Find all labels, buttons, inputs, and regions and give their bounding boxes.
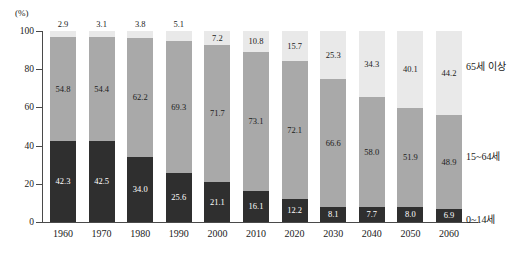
bar-value-label: 2.9 — [58, 19, 69, 29]
bar-segment-old-2030: 25.3 — [320, 31, 346, 79]
bar-value-label: 3.8 — [135, 19, 146, 29]
bar-value-label: 8.0 — [405, 210, 416, 219]
bar-value-label: 48.9 — [442, 158, 457, 167]
bar-segment-old-2060: 44.2 — [436, 31, 462, 115]
bar-segment-young-2040: 7.7 — [359, 207, 385, 222]
bar-segment-young-2000: 21.1 — [204, 182, 230, 222]
y-axis-tick-60: 60 — [4, 102, 34, 112]
y-axis-tick-0: 0 — [4, 217, 34, 227]
bar-segment-young-1990: 25.6 — [166, 173, 192, 222]
bar-value-label: 54.8 — [56, 85, 71, 94]
bar-segment-work-2000: 71.7 — [204, 45, 230, 182]
bar-value-label: 3.1 — [96, 19, 107, 29]
bar-value-label: 62.2 — [133, 93, 148, 102]
bar-segment-old-1990: 5.1 — [166, 31, 192, 41]
bar-1970[interactable]: 3.154.442.5 — [89, 31, 115, 222]
y-axis-tick-labels: 100806040200 — [0, 0, 34, 261]
bar-value-label: 73.1 — [249, 117, 264, 126]
bar-segment-old-1980: 3.8 — [127, 31, 153, 38]
bar-value-label: 66.6 — [326, 139, 341, 148]
legend-label-young: 0~14세 — [466, 211, 495, 226]
bar-value-label: 42.5 — [94, 177, 109, 186]
bar-segment-young-1960: 42.3 — [50, 141, 76, 222]
bar-segment-young-2030: 8.1 — [320, 207, 346, 222]
bar-segment-old-2000: 7.2 — [204, 31, 230, 45]
bar-value-label: 51.9 — [403, 153, 418, 162]
x-axis-label-2060: 2060 — [426, 228, 472, 239]
population-age-structure-chart: (%) 100806040200 2.954.842.33.154.442.53… — [0, 0, 524, 261]
legend-label-work: 15~64세 — [466, 148, 500, 163]
bar-value-label: 5.1 — [173, 19, 184, 29]
bar-segment-old-2050: 40.1 — [397, 31, 423, 108]
y-axis-tick-20: 20 — [4, 179, 34, 189]
bar-value-label: 6.9 — [444, 211, 455, 220]
bar-value-label: 34.0 — [133, 185, 148, 194]
bar-2040[interactable]: 34.358.07.7 — [359, 31, 385, 222]
bar-2050[interactable]: 40.151.98.0 — [397, 31, 423, 222]
bar-1960[interactable]: 2.954.842.3 — [50, 31, 76, 222]
bar-segment-work-1980: 62.2 — [127, 38, 153, 157]
bar-value-label: 21.1 — [210, 198, 225, 207]
bar-segment-work-2010: 73.1 — [243, 52, 269, 192]
bar-2060[interactable]: 44.248.96.9 — [436, 31, 462, 222]
bar-value-label: 25.3 — [326, 51, 341, 60]
plot-area: 2.954.842.33.154.442.53.862.234.05.169.3… — [42, 31, 478, 222]
bar-2010[interactable]: 10.873.116.1 — [243, 31, 269, 222]
y-axis-tick-80: 80 — [4, 64, 34, 74]
bar-segment-young-2060: 6.9 — [436, 209, 462, 222]
bar-segment-work-1990: 69.3 — [166, 41, 192, 173]
bar-1990[interactable]: 5.169.325.6 — [166, 31, 192, 222]
bar-segment-work-2030: 66.6 — [320, 79, 346, 206]
bar-value-label: 7.2 — [212, 34, 223, 43]
bar-value-label: 42.3 — [56, 177, 71, 186]
bar-segment-young-1980: 34.0 — [127, 157, 153, 222]
legend-label-old: 65세 이상 — [466, 58, 506, 73]
bar-2020[interactable]: 15.772.112.2 — [282, 31, 308, 222]
bar-segment-old-2020: 15.7 — [282, 31, 308, 61]
bar-segment-young-2050: 8.0 — [397, 207, 423, 222]
bar-1980[interactable]: 3.862.234.0 — [127, 31, 153, 222]
bar-value-label: 25.6 — [171, 193, 186, 202]
bar-value-label: 12.2 — [287, 206, 302, 215]
bar-segment-work-2050: 51.9 — [397, 108, 423, 207]
bar-2030[interactable]: 25.366.68.1 — [320, 31, 346, 222]
bar-value-label: 34.3 — [364, 60, 379, 69]
y-axis-tick-100: 100 — [4, 26, 34, 36]
bar-value-label: 10.8 — [249, 37, 264, 46]
bar-segment-work-1970: 54.4 — [89, 37, 115, 141]
bar-2000[interactable]: 7.271.721.1 — [204, 31, 230, 222]
bar-value-label: 7.7 — [366, 210, 377, 219]
bar-segment-work-1960: 54.8 — [50, 37, 76, 142]
bar-value-label: 40.1 — [403, 65, 418, 74]
bar-value-label: 72.1 — [287, 126, 302, 135]
bar-segment-old-2040: 34.3 — [359, 31, 385, 97]
bar-segment-young-1970: 42.5 — [89, 141, 115, 222]
bar-value-label: 8.1 — [328, 210, 339, 219]
y-axis-tick-40: 40 — [4, 141, 34, 151]
bar-value-label: 44.2 — [442, 69, 457, 78]
bar-segment-young-2010: 16.1 — [243, 191, 269, 222]
bar-segment-old-2010: 10.8 — [243, 31, 269, 52]
bar-value-label: 15.7 — [287, 42, 302, 51]
x-axis-line — [42, 222, 478, 223]
bar-value-label: 69.3 — [171, 103, 186, 112]
bar-segment-young-2020: 12.2 — [282, 199, 308, 222]
bar-segment-work-2020: 72.1 — [282, 61, 308, 199]
bar-segment-work-2040: 58.0 — [359, 97, 385, 208]
bar-value-label: 54.4 — [94, 85, 109, 94]
bar-value-label: 16.1 — [249, 202, 264, 211]
bar-value-label: 58.0 — [364, 148, 379, 157]
bar-segment-work-2060: 48.9 — [436, 115, 462, 208]
bar-value-label: 71.7 — [210, 109, 225, 118]
